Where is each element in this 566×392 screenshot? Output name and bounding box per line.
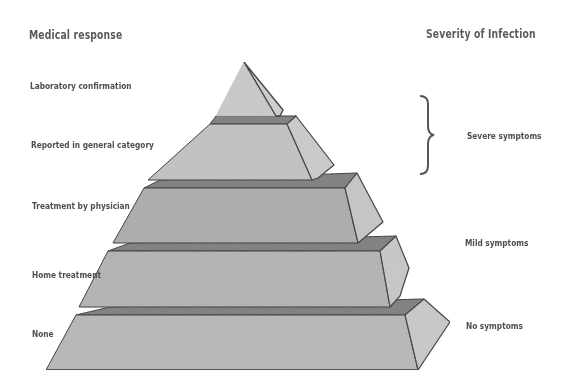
tier-3-front-face	[113, 188, 358, 243]
tier-4-label: Home treatment	[32, 269, 101, 280]
infection-pyramid-diagram	[0, 0, 566, 392]
tier-2-label: Reported in general category	[31, 139, 154, 150]
tier-2-front-face	[148, 124, 312, 180]
tier-5-label: None	[32, 328, 54, 339]
mild-symptoms-label: Mild symptoms	[465, 237, 528, 248]
tier-3-label: Treatment by physician	[32, 200, 130, 211]
tier-3-treatment-by-physician	[113, 173, 383, 243]
tier-4-front-face	[79, 251, 390, 307]
tier-2-ledge	[210, 116, 296, 124]
severe-symptoms-label: Severe symptoms	[467, 130, 542, 141]
tier-2-reported-general-category	[148, 116, 334, 180]
tier-5-front-face	[46, 315, 418, 370]
no-symptoms-label: No symptoms	[466, 320, 523, 331]
tier-1-laboratory-confirmation	[216, 62, 283, 116]
tier-1-front-face	[216, 62, 276, 116]
right-curly-brace-icon	[420, 96, 434, 174]
tier-4-home-treatment	[79, 236, 409, 307]
tier-1-label: Laboratory confirmation	[30, 80, 132, 91]
tier-5-none	[46, 299, 450, 370]
